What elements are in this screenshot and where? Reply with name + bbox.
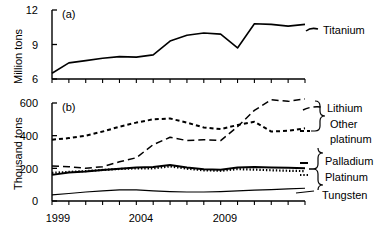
panel-b-series-lines <box>52 99 305 195</box>
series-line-tungsten <box>52 188 305 195</box>
brace-other-platinum <box>311 101 325 131</box>
panel-b-plot <box>0 0 378 235</box>
figure-root: Million tons 12 9 6 (a) Titanium Thousan… <box>0 0 378 235</box>
series-line-other-platinum <box>52 119 305 140</box>
panel-b-legend-braces <box>296 101 325 193</box>
brace-palladium-top <box>309 148 323 169</box>
brace-platinum-bottom <box>309 169 323 190</box>
legend-mark-tungsten <box>296 191 314 193</box>
legend-mark-lithium <box>303 107 321 110</box>
